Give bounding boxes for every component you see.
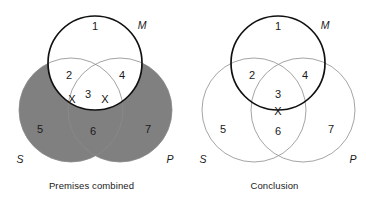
set-label-m: M [321, 19, 330, 31]
region-number-3: 3 [275, 88, 281, 100]
conclusion-diagram: 1 2 3 4 5 6 7 X S P M [183, 0, 366, 180]
panel-premises-combined: 1 2 3 4 5 6 7 X X S P M Premises combine… [0, 0, 183, 213]
region-number-6: 6 [275, 125, 281, 137]
region-number-2: 2 [66, 69, 72, 81]
region-number-4: 4 [302, 69, 308, 81]
region-number-2: 2 [249, 69, 255, 81]
set-label-m: M [138, 19, 147, 31]
region-number-3: 3 [85, 88, 91, 100]
panel-conclusion: 1 2 3 4 5 6 7 X S P M Conclusion [183, 0, 366, 213]
set-label-p: P [166, 153, 173, 165]
region-number-7: 7 [145, 123, 151, 135]
region-number-1: 1 [275, 20, 281, 32]
caption-premises-combined: Premises combined [0, 180, 183, 191]
region-number-5: 5 [220, 123, 226, 135]
premises-diagram: 1 2 3 4 5 6 7 X X S P M [0, 0, 183, 180]
venn-diagram-figure: 1 2 3 4 5 6 7 X X S P M Premises combine… [0, 0, 366, 213]
region-number-6: 6 [90, 125, 96, 137]
region-number-4: 4 [119, 69, 125, 81]
x-mark-right: X [101, 93, 109, 105]
set-label-p: P [349, 153, 356, 165]
set-label-s: S [199, 153, 206, 165]
caption-conclusion: Conclusion [183, 180, 366, 191]
set-label-s: S [16, 153, 23, 165]
region-number-5: 5 [37, 123, 43, 135]
x-mark-left: X [68, 93, 76, 105]
region-number-7: 7 [328, 123, 334, 135]
region-number-1: 1 [92, 20, 98, 32]
x-mark-center: X [274, 105, 282, 117]
